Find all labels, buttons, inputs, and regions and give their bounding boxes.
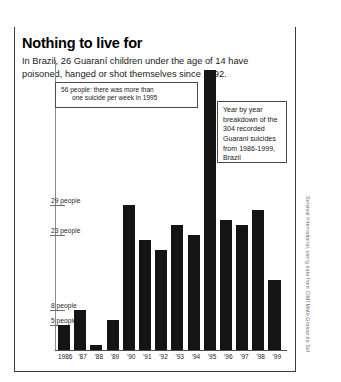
x-axis-label-1986: 1986 xyxy=(58,353,72,360)
x-axis-label-99: '99 xyxy=(271,353,283,360)
bar-96 xyxy=(220,220,232,350)
bar-column xyxy=(204,60,216,350)
bar-89 xyxy=(107,320,119,350)
bar-90 xyxy=(123,205,135,350)
x-axis-line xyxy=(55,350,287,351)
description-text: Year by year breakdown of the 304 record… xyxy=(223,106,282,164)
x-axis-label-96: '96 xyxy=(222,353,234,360)
bar-99 xyxy=(268,280,280,350)
bar-93 xyxy=(171,225,183,350)
peak-callout-line-1: 56 people: there was more than xyxy=(61,86,193,94)
bar-87 xyxy=(74,310,86,350)
x-axis-label-87: '87 xyxy=(77,353,89,360)
source-credit: Survival International, using data from … xyxy=(305,196,311,352)
bar-1986 xyxy=(58,325,70,350)
x-axis-label-93: '93 xyxy=(174,353,186,360)
bar-97 xyxy=(236,225,248,350)
bar-94 xyxy=(188,235,200,350)
x-axis-label-90: '90 xyxy=(125,353,137,360)
x-axis-label-95: '95 xyxy=(206,353,218,360)
bar-95 xyxy=(204,70,216,350)
peak-callout-box: 56 people: there was more than one suici… xyxy=(55,82,198,108)
peak-callout-line-2: one suicide per week in 1995 xyxy=(61,94,193,102)
x-axis-label-98: '98 xyxy=(255,353,267,360)
x-axis-labels: 1986'87'88'89'90'91'92'93'94'95'96'97'98… xyxy=(56,353,287,360)
bar-92 xyxy=(155,250,167,350)
x-axis-label-89: '89 xyxy=(109,353,121,360)
x-axis-label-91: '91 xyxy=(141,353,153,360)
page-title: Nothing to live for xyxy=(22,36,288,52)
bar-98 xyxy=(252,210,264,350)
x-axis-label-94: '94 xyxy=(190,353,202,360)
bar-88 xyxy=(90,345,102,350)
x-axis-label-92: '92 xyxy=(158,353,170,360)
bar-91 xyxy=(139,240,151,350)
x-axis-label-97: '97 xyxy=(238,353,250,360)
description-box: Year by year breakdown of the 304 record… xyxy=(217,101,287,163)
x-axis-label-88: '88 xyxy=(93,353,105,360)
